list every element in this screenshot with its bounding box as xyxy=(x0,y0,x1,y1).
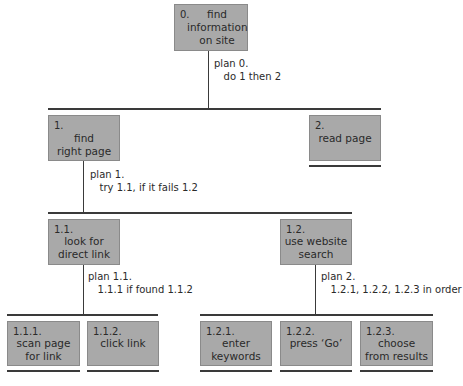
leaf-underline xyxy=(280,370,352,372)
task-number: 2. xyxy=(315,119,325,132)
task-box-1-1-2: 1.1.2. click link xyxy=(87,321,159,366)
task-box-1-2-2: 1.2.2. press ‘Go’ xyxy=(280,321,352,366)
task-number: 1. xyxy=(54,119,64,132)
leaf-underline xyxy=(309,165,381,167)
leaf-underline xyxy=(7,370,80,372)
task-label: choose from results xyxy=(361,337,432,363)
leaf-underline xyxy=(360,370,433,372)
plan-title: plan 1.1. xyxy=(88,271,132,282)
task-box-1: 1. find right page xyxy=(48,115,120,161)
connector-line xyxy=(83,161,84,213)
plan-1-1: plan 1.1. 1.1.1 if found 1.1.2 xyxy=(88,270,193,296)
task-label: scan page for link xyxy=(8,337,79,363)
task-label: read page xyxy=(310,132,380,145)
plan-title: plan 2. xyxy=(321,271,355,282)
plan-body: do 1 then 2 xyxy=(214,71,281,82)
connector-bar xyxy=(48,108,381,110)
connector-line xyxy=(83,265,84,315)
plan-title: plan 1. xyxy=(90,169,124,180)
task-box-2: 2. read page xyxy=(309,115,381,161)
task-box-0: 0. find information on site xyxy=(174,4,248,51)
task-label: find information on site xyxy=(175,8,247,47)
task-label: find right page xyxy=(49,132,119,158)
task-box-1-1: 1.1. look for direct link xyxy=(48,219,120,265)
task-box-1-2-3: 1.2.3. choose from results xyxy=(360,321,433,366)
task-box-1-1-1: 1.1.1. scan page for link xyxy=(7,321,80,366)
connector-bar xyxy=(48,212,352,214)
connector-line xyxy=(315,265,316,315)
plan-title: plan 0. xyxy=(214,58,248,69)
plan-2: plan 2. 1.2.1, 1.2.2, 1.2.3 in order xyxy=(321,270,462,296)
connector-bar xyxy=(7,314,158,316)
plan-body: 1.2.1, 1.2.2, 1.2.3 in order xyxy=(321,284,462,295)
task-label: click link xyxy=(88,337,158,350)
leaf-underline xyxy=(87,370,159,372)
task-box-1-2: 1.2. use website search xyxy=(280,219,352,265)
connector-bar xyxy=(200,314,433,316)
task-label: look for direct link xyxy=(49,235,119,261)
connector-line xyxy=(208,51,209,109)
task-box-1-2-1: 1.2.1. enter keywords xyxy=(200,321,272,366)
task-label: press ‘Go’ xyxy=(281,337,351,350)
leaf-underline xyxy=(200,370,272,372)
task-label: enter keywords xyxy=(201,337,271,363)
task-label: use website search xyxy=(281,235,351,261)
plan-0: plan 0. do 1 then 2 xyxy=(214,57,281,83)
plan-body: try 1.1, if it fails 1.2 xyxy=(90,182,198,193)
plan-1: plan 1. try 1.1, if it fails 1.2 xyxy=(90,168,198,194)
plan-body: 1.1.1 if found 1.1.2 xyxy=(88,284,193,295)
